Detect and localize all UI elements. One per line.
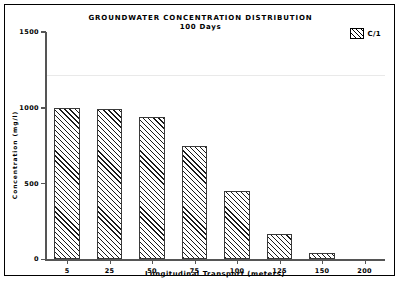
x-tick-mark [280,261,281,264]
y-axis-title: Concentration (mg/l) [11,111,18,199]
bar [182,146,208,259]
x-axis-line [45,259,385,261]
chart-frame: GROUNDWATER CONCENTRATION DISTRIBUTION 1… [4,4,395,276]
chart-title-block: GROUNDWATER CONCENTRATION DISTRIBUTION 1… [5,14,396,32]
x-tick-mark [152,261,153,264]
plot-area: 050010001500 5255075100125150200 [45,32,385,261]
y-tick-label: 500 [24,180,39,188]
chart-subtitle: 100 Days [5,23,396,32]
y-tick-mark [41,259,46,260]
bar [224,191,250,259]
x-axis-title: Longitudinal Transport (meters) [45,270,385,278]
y-tick-label: 1500 [19,28,39,36]
y-tick-mark [41,107,46,108]
chart-title: GROUNDWATER CONCENTRATION DISTRIBUTION [5,14,396,23]
y-tick-mark [41,31,46,32]
x-tick-mark [67,261,68,264]
bar [97,109,123,259]
y-axis-line [45,32,47,261]
x-tick-mark [237,261,238,264]
bar [139,117,165,260]
y-tick-label: 1000 [19,104,39,112]
x-tick-mark [195,261,196,264]
y-tick-mark [41,183,46,184]
x-tick-mark [365,261,366,264]
bar [309,253,335,259]
bar [267,234,293,259]
y-tick-label: 0 [34,255,39,263]
bar [54,108,80,260]
plot-guide-line [45,75,385,76]
x-tick-mark [110,261,111,264]
x-tick-mark [322,261,323,264]
